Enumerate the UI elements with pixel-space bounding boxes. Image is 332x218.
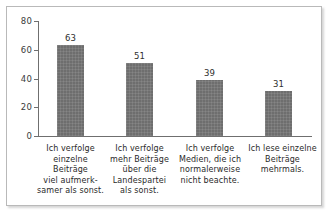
y-tick-label-40: 40 xyxy=(6,75,32,84)
category-label-2: Ich verfolge Medien, die ich normalerwei… xyxy=(174,144,246,186)
y-axis-line xyxy=(38,21,39,137)
y-tick-label-20-wrap: 20 xyxy=(4,103,32,112)
x-axis-line xyxy=(38,136,312,137)
bar-0 xyxy=(57,45,84,136)
category-label-1: Ich verfolge mehr Beiträge über die Land… xyxy=(105,144,174,197)
bar-1 xyxy=(126,63,153,136)
y-tick-label-60-wrap: 60 xyxy=(4,46,32,55)
category-label-0: Ich verfolge einzelne Beiträge viel aufm… xyxy=(35,144,106,197)
bar-value-1: 51 xyxy=(119,51,160,61)
y-tick-20 xyxy=(34,107,38,108)
bar-value-2: 39 xyxy=(189,68,230,78)
category-label-3: Ich lese einzelne Beiträge mehrmals. xyxy=(245,144,320,176)
chart-figure: 0 20 40 60 80 63 51 39 31 Ich verfolge e… xyxy=(0,0,332,218)
y-tick-label-20: 20 xyxy=(6,103,32,112)
bar-value-3: 31 xyxy=(258,79,299,89)
y-tick-60 xyxy=(34,50,38,51)
y-tick-label-40-wrap: 40 xyxy=(4,75,32,84)
y-tick-label-0-wrap: 0 xyxy=(4,132,32,141)
plot-area: 0 20 40 60 80 63 51 39 31 Ich verfolge e… xyxy=(0,0,332,218)
bar-2 xyxy=(196,80,223,136)
y-tick-label-80-wrap: 80 xyxy=(4,17,32,26)
y-tick-80 xyxy=(34,21,38,22)
y-tick-label-0: 0 xyxy=(6,132,32,141)
y-tick-label-80: 80 xyxy=(6,17,32,26)
bar-3 xyxy=(265,91,292,136)
y-tick-40 xyxy=(34,79,38,80)
y-tick-label-60: 60 xyxy=(6,46,32,55)
y-tick-0 xyxy=(34,136,38,137)
bar-value-0: 63 xyxy=(50,33,91,43)
